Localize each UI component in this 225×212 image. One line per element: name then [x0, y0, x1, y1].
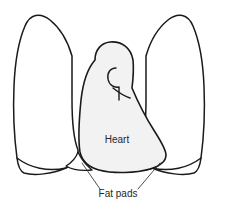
fat-pads-label: Fat pads — [99, 188, 138, 199]
chest-anatomy-diagram: Heart Fat pads — [0, 0, 225, 212]
anatomy-illustration: Heart Fat pads — [0, 0, 225, 212]
heart-label: Heart — [105, 134, 130, 145]
